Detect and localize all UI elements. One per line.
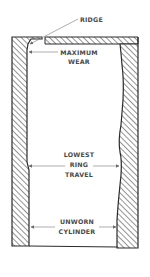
lowest-ring-travel-label-line1: LOWEST [64, 151, 95, 158]
left-cylinder-wall [12, 37, 42, 246]
ridge-label: RIDGE [80, 16, 103, 23]
bottom-edge [29, 246, 117, 247]
lowest-ring-travel-label-line2: RING [70, 161, 88, 168]
top-wall-band [45, 37, 138, 44]
maximum-wear-label-line2: WEAR [68, 58, 90, 65]
maximum-wear-label-line1: MAXIMUM [60, 49, 97, 56]
right-cylinder-wall [117, 37, 138, 248]
lowest-ring-travel-label-line3: TRAVEL [65, 171, 93, 178]
cylinder-wear-diagram: RIDGE MAXIMUM WEAR LOWEST RING TRAVEL UN… [0, 0, 150, 277]
unworn-cylinder-label-line1: UNWORN [60, 218, 94, 225]
unworn-cylinder-label-line2: CYLINDER [59, 228, 96, 235]
